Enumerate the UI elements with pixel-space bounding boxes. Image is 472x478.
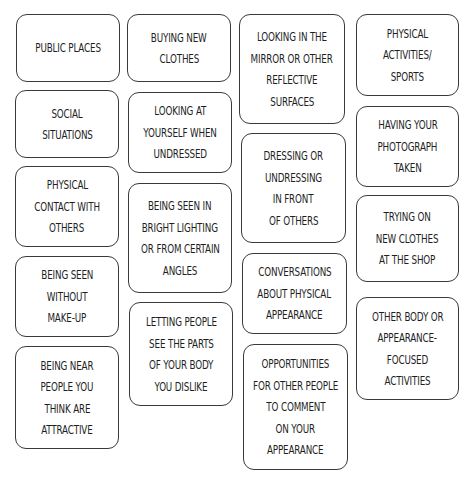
card-text-line: PEOPLE YOU (41, 376, 94, 398)
card-conversations-appearance: CONVERSATIONSABOUT PHYSICALAPPEARANCE (242, 253, 347, 334)
card-text-line: AT THE SHOP (379, 249, 435, 271)
card-text-line: TRYING ON (384, 206, 431, 228)
card-text-line: ON YOUR (276, 418, 315, 440)
card-text-line: CLOTHES (159, 48, 199, 70)
card-text-line: IN FRONT (273, 188, 314, 210)
card-text-line: WITHOUT (47, 286, 88, 308)
card-text-line: APPEARANCE (266, 304, 322, 326)
card-text-line: DRESSING OR (264, 145, 324, 167)
card-text: BEING SEEN INBRIGHT LIGHTINGOR FROM CERT… (130, 195, 231, 281)
card-text: HAVING YOURPHOTOGRAPHTAKEN (369, 114, 446, 179)
card-text: LOOKING IN THEMIRROR OR OTHERREFLECTIVES… (239, 26, 344, 112)
card-text-line: ANGLES (163, 260, 197, 282)
card-text-line: REFLECTIVE (266, 69, 317, 91)
card-text-line: OTHERS (49, 217, 84, 239)
card-text-line: YOU DISLIKE (155, 376, 208, 398)
card-trying-on-clothes: TRYING ONNEW CLOTHESAT THE SHOP (356, 195, 459, 282)
card-text-line: APPEARANCE- (378, 327, 437, 349)
card-text-line: TAKEN (394, 157, 422, 179)
card-text: PHYSICALCONTACT WITHOTHERS (25, 174, 109, 239)
card-looking-undressed: LOOKING ATYOURSELF WHENUNDRESSED (128, 92, 232, 173)
card-opportunities-comment: OPPORTUNITIESFOR OTHER PEOPLETO COMMENTO… (243, 344, 348, 470)
card-text-line: LOOKING IN THE (257, 26, 327, 48)
card-text-line: OF OTHERS (269, 210, 318, 232)
card-text-line: OTHER BODY OR (372, 306, 443, 328)
card-public-places: PUBLIC PLACES (16, 14, 120, 82)
card-text: BEING SEENWITHOUTMAKE-UP (34, 264, 101, 329)
card-text: BEING NEARPEOPLE YOUTHINK AREATTRACTIVE (33, 355, 101, 441)
card-text-line: BEING NEAR (41, 355, 94, 377)
card-text-line: BEING SEEN IN (148, 195, 211, 217)
card-text-line: ABOUT PHYSICAL (258, 283, 332, 305)
card-text-line: BEING SEEN (41, 264, 93, 286)
card-text-line: HAVING YOUR (378, 114, 437, 136)
card-text-line: FOR OTHER PEOPLE (253, 375, 338, 397)
card-text-line: MIRROR OR OTHER (251, 48, 333, 70)
card-text-line: PHYSICAL (46, 174, 87, 196)
card-text-line: SURFACES (270, 91, 314, 113)
card-text-line: SEE THE PARTS (149, 333, 214, 355)
card-text-line: UNDRESSED (153, 143, 206, 165)
card-text: PHYSICALACTIVITIES/SPORTS (376, 23, 439, 88)
card-text-line: LOOKING AT (154, 100, 206, 122)
card-text-line: CONVERSATIONS (258, 261, 331, 283)
card-text: SOCIALSITUATIONS (35, 103, 100, 146)
card-text-line: ATTRACTIVE (41, 419, 92, 441)
card-text-line: OPPORTUNITIES (262, 353, 330, 375)
card-dressing-in-front: DRESSING ORUNDRESSINGIN FRONTOF OTHERS (241, 133, 346, 243)
card-social-situations: SOCIALSITUATIONS (15, 90, 119, 158)
card-text-line: OR FROM CERTAIN (141, 238, 220, 260)
card-text-line: LETTING PEOPLE (146, 311, 217, 333)
card-without-makeup: BEING SEENWITHOUTMAKE-UP (15, 256, 119, 337)
card-photograph-taken: HAVING YOURPHOTOGRAPHTAKEN (356, 106, 459, 187)
card-text-line: FOCUSED (387, 349, 428, 371)
card-bright-lighting: BEING SEEN INBRIGHT LIGHTINGOR FROM CERT… (128, 183, 232, 293)
card-text: PUBLIC PLACES (26, 37, 110, 59)
card-text-line: NEW CLOTHES (376, 228, 438, 250)
card-text-line: BUYING NEW (151, 27, 207, 49)
card-text: OPPORTUNITIESFOR OTHER PEOPLETO COMMENTO… (241, 353, 350, 461)
card-text-line: PHYSICAL (387, 23, 428, 45)
card-text: LOOKING ATYOURSELF WHENUNDRESSED (133, 100, 227, 165)
card-text-line: ACTIVITIES/ (383, 44, 432, 66)
card-text: LETTING PEOPLESEE THE PARTSOF YOUR BODYY… (136, 311, 227, 397)
card-text-line: CONTACT WITH (34, 196, 100, 218)
card-buying-new-clothes: BUYING NEWCLOTHES (127, 14, 231, 82)
card-text-line: MAKE-UP (48, 307, 87, 329)
card-text-line: OF YOUR BODY (149, 354, 213, 376)
card-text-line: SITUATIONS (42, 124, 93, 146)
card-text: CONVERSATIONSABOUT PHYSICALAPPEARANCE (247, 261, 341, 326)
card-text-line: YOURSELF WHEN (143, 122, 216, 144)
card-parts-you-dislike: LETTING PEOPLESEE THE PARTSOF YOUR BODYY… (129, 302, 233, 406)
card-text: OTHER BODY ORAPPEARANCE-FOCUSEDACTIVITIE… (362, 306, 454, 392)
card-other-body-activities: OTHER BODY ORAPPEARANCE-FOCUSEDACTIVITIE… (356, 297, 459, 400)
card-near-attractive-people: BEING NEARPEOPLE YOUTHINK AREATTRACTIVE (15, 346, 119, 449)
card-text: BUYING NEWCLOTHES (143, 27, 214, 70)
card-text-line: SOCIAL (51, 103, 82, 125)
card-physical-contact: PHYSICALCONTACT WITHOTHERS (15, 166, 119, 247)
card-text-line: SPORTS (391, 66, 424, 88)
card-text-line: APPEARANCE (267, 439, 323, 461)
card-text-line: TO COMMENT (266, 396, 325, 418)
card-text: DRESSING ORUNDRESSINGIN FRONTOF OTHERS (255, 145, 331, 231)
card-text: TRYING ONNEW CLOTHESAT THE SHOP (367, 206, 447, 271)
card-text-line: ACTIVITIES (385, 370, 431, 392)
card-text-line: THINK ARE (44, 398, 90, 420)
card-physical-activities: PHYSICALACTIVITIES/SPORTS (356, 14, 459, 96)
card-text-line: PUBLIC PLACES (35, 37, 101, 59)
card-text-line: PHOTOGRAPH (378, 136, 438, 158)
card-text-line: UNDRESSING (265, 167, 322, 189)
card-text-line: BRIGHT LIGHTING (142, 217, 218, 239)
card-looking-in-mirror: LOOKING IN THEMIRROR OR OTHERREFLECTIVES… (239, 14, 345, 124)
